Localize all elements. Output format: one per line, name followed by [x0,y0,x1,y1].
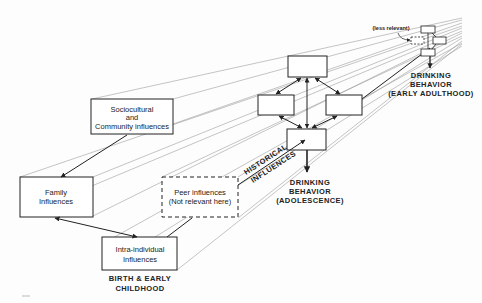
peer-node: Peer influences (Not relevant here) [162,177,238,217]
ea-top-box [421,26,435,33]
intra-label-2: Influences [123,255,157,264]
early-adulthood-stage: (less relevant) DRINKING BEHAVIOR (EARLY… [373,25,474,98]
adolescence-outcome-1: DRINKING [290,178,330,187]
developmental-model-diagram: Sociocultural and Community influences F… [0,0,482,303]
adulthood-outcome-3: (EARLY ADULTHOOD) [388,89,474,98]
adolescence-left-box [258,95,294,115]
adolescence-outcome-2: BEHAVIOR [289,187,331,196]
peer-label-1: Peer influences [174,188,226,197]
adulthood-outcome-1: DRINKING [411,71,451,80]
sociocultural-label-3: Community influences [95,122,169,131]
family-node: Family Influences [20,177,93,217]
arrow-family-intra [55,218,137,237]
adulthood-outcome-2: BEHAVIOR [410,80,452,89]
arrow-top-left [276,78,301,94]
intra-individual-node: Intra-individual Influences [102,237,177,270]
childhood-caption-2: CHILDHOOD [115,284,164,293]
adolescence-stage: DRINKING BEHAVIOR (ADOLESCENCE) [258,56,362,205]
sociocultural-label-2: and [126,113,139,122]
family-label-1: Family [45,188,67,197]
intra-label-1: Intra-individual [116,245,165,254]
ea-left-box-dashed [411,37,424,44]
childhood-caption-1: BIRTH & EARLY [109,274,171,283]
diagram-canvas: Sociocultural and Community influences F… [0,0,482,303]
less-relevant-annotation: (less relevant) [373,25,410,31]
adolescence-bottom-box [287,129,326,150]
adolescence-top-box [288,56,327,77]
childhood-stage: Sociocultural and Community influences F… [20,99,238,293]
adolescence-right-box [326,95,362,115]
adolescence-outcome-3: (ADOLESCENCE) [276,196,344,205]
arrow-sociocultural-to-family [61,135,127,177]
peer-label-2: (Not relevant here) [169,197,232,206]
family-label-2: Influences [39,197,73,206]
ea-right-box [433,37,446,44]
sociocultural-node: Sociocultural and Community influences [91,99,173,134]
less-relevant-pointer [398,33,410,40]
ea-bottom-box [421,49,435,56]
perspective-lines [20,18,462,270]
